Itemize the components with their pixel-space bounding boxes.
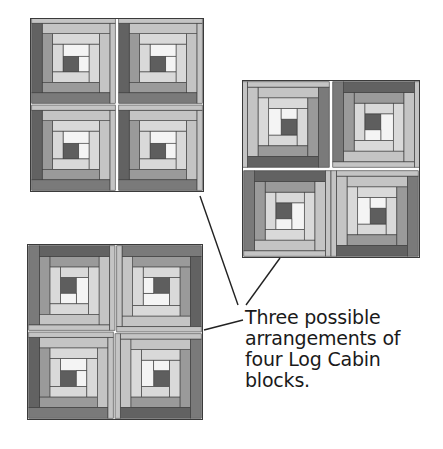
caption-line-4: blocks. — [245, 370, 400, 391]
caption-line-2: arrangements of — [245, 328, 400, 349]
leader-line-2 — [246, 258, 280, 305]
leader-line-1 — [200, 196, 238, 305]
leader-line-3 — [204, 320, 243, 330]
figure-caption: Three possible arrangements of four Log … — [245, 307, 400, 391]
caption-line-1: Three possible — [245, 307, 400, 328]
caption-line-3: four Log Cabin — [245, 349, 400, 370]
